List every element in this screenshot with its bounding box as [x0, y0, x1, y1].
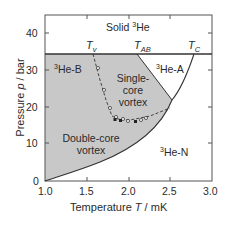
single-core-line3: vortex	[113, 96, 153, 108]
x-axis-title: Temperature T / mK	[70, 202, 167, 213]
y-axis-title: Pressure p / bar	[15, 48, 26, 148]
y-tick-40: 40	[26, 28, 38, 39]
y-tick-20: 20	[26, 102, 38, 113]
he-b-label: 3He-B	[54, 64, 82, 75]
tv-label: Tv	[86, 40, 96, 51]
single-core-vortex-label: Single- core vortex	[113, 72, 153, 108]
y-tick-10: 10	[26, 138, 38, 149]
tab-label: TAB	[134, 40, 151, 51]
he-n-label: 3He-N	[160, 147, 188, 158]
solid-he-label: Solid 3He	[106, 22, 150, 33]
single-core-line1: Single-	[113, 72, 153, 84]
x-tick-1-5: 1.5	[79, 186, 94, 197]
y-tick-30: 30	[26, 65, 38, 76]
x-tick-1-0: 1.0	[38, 186, 53, 197]
he-a-label: 3He-A	[156, 64, 184, 75]
x-tick-2-5: 2.5	[162, 186, 177, 197]
tc-label: TC	[188, 40, 200, 51]
single-core-line2: core	[113, 84, 153, 96]
x-tick-2-0: 2.0	[121, 186, 136, 197]
double-core-line2: vortex	[58, 144, 124, 156]
double-core-vortex-label: Double-core vortex	[58, 132, 124, 156]
double-core-line1: Double-core	[58, 132, 124, 144]
x-tick-3-0: 3.0	[203, 186, 218, 197]
